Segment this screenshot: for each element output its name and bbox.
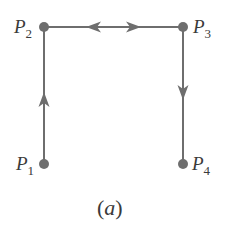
label-p1: P1: [15, 153, 34, 178]
node-p4: [178, 159, 188, 169]
label-p4: P4: [191, 153, 211, 178]
label-p2: P2: [13, 16, 32, 41]
node-p3: [178, 22, 188, 32]
edge-p1-p2: [39, 27, 50, 164]
label-p3: P3: [192, 16, 211, 41]
path-diagram: P2 P3 P1 P4 (a): [0, 0, 235, 231]
figure-caption: (a): [97, 195, 123, 220]
edge-p2-p3: [44, 22, 183, 33]
node-p1: [39, 159, 49, 169]
edge-p3-p4: [178, 27, 189, 164]
node-p2: [39, 22, 49, 32]
